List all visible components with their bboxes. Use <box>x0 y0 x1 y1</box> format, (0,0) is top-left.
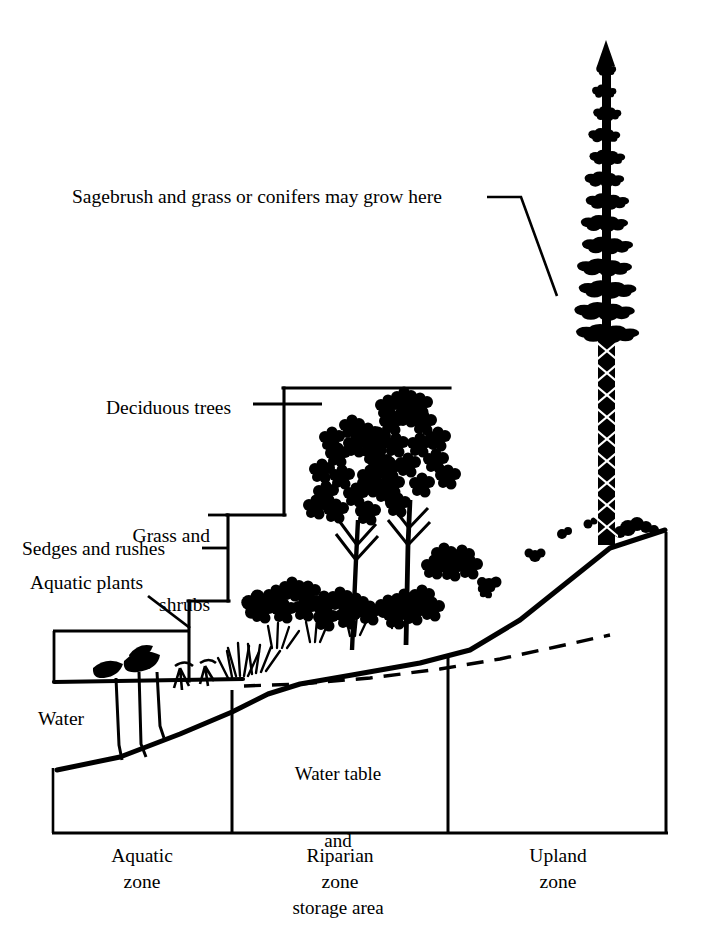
water-table-line-3: storage area <box>258 897 418 919</box>
grass-and-shrubs-line-2: shrubs <box>30 593 210 616</box>
sagebrush-leader <box>487 197 557 296</box>
interior-label-water-table: Water table and storage area <box>258 718 418 933</box>
zone-label-aquatic: Aquatic zone <box>72 843 212 894</box>
upland-shrubs-illustration <box>477 517 659 598</box>
callout-label-deciduous-trees: Deciduous trees <box>106 396 231 419</box>
callout-leader-lines <box>487 197 557 296</box>
zone-riparian-line-1: Riparian <box>270 843 410 869</box>
water-table-line-1: Water table <box>258 763 418 785</box>
callout-label-aquatic-plants: Aquatic plants <box>30 571 143 594</box>
callout-label-sedges-and-rushes: Sedges and rushes <box>22 537 165 560</box>
zone-aquatic-line-2: zone <box>72 869 212 895</box>
callout-label-water: Water <box>38 707 84 730</box>
conifer-tree <box>574 40 639 545</box>
zone-upland-line-1: Upland <box>488 843 628 869</box>
shrubs-illustration <box>241 577 445 649</box>
zone-label-upland: Upland zone <box>488 843 628 894</box>
zone-label-riparian: Riparian zone <box>270 843 410 894</box>
zone-upland-line-2: zone <box>488 869 628 895</box>
zone-riparian-line-2: zone <box>270 869 410 895</box>
sedges-rushes-illustration <box>218 643 280 678</box>
riparian-cross-section-diagram: Sagebrush and grass or conifers may grow… <box>0 0 721 933</box>
callout-label-sagebrush: Sagebrush and grass or conifers may grow… <box>72 185 442 208</box>
callout-label-grass-and-shrubs: Grass and shrubs <box>30 478 210 662</box>
zone-aquatic-line-1: Aquatic <box>72 843 212 869</box>
